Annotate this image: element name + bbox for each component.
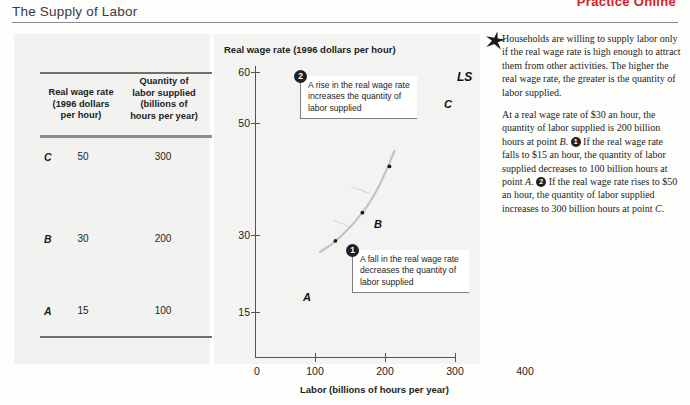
p2-period-2: . (531, 176, 534, 187)
point-label-b: B (374, 218, 382, 230)
x-tick-label-200: 200 (368, 365, 402, 377)
sidebar-paragraph-2: At a real wage rate of $30 an hour, the … (502, 108, 682, 215)
callout-badge-1: 1 (346, 244, 359, 257)
table-cell-quantity: 100 (122, 305, 204, 316)
curve-label-ls: LS (457, 70, 472, 84)
table-cell-quantity: 300 (122, 151, 204, 162)
p2-period-1: . (566, 136, 569, 147)
table-header-wage: Real wage rate (1996 dollars per hour) (44, 87, 118, 122)
chart-x-axis-title: Labor (billions of hours per year) (300, 384, 449, 395)
p2-period-3: . (662, 203, 665, 214)
table-cell-quantity: 200 (122, 233, 204, 244)
table-header-wage-line1: Real wage rate (44, 87, 118, 99)
title-divider (12, 22, 678, 23)
table-header-wage-line2: (1996 dollars (44, 99, 118, 111)
data-point-b (360, 211, 364, 215)
callout-box-1: A fall in the real wage rate decreases t… (352, 250, 469, 293)
inline-badge-1: 1 (571, 137, 581, 147)
p2-point-c: C (655, 203, 662, 214)
sidebar-text: Households are willing to supply labor o… (502, 32, 682, 224)
table-header-qty-line4: hours per year) (122, 111, 206, 123)
data-table-panel: Real wage rate (1996 dollars per hour) Q… (14, 34, 210, 364)
table-rule-middle (40, 135, 212, 138)
callout-box-2: A rise in the real wage rate increases t… (300, 76, 417, 119)
table-rule-bottom (40, 336, 212, 338)
x-tick-label-100: 100 (298, 365, 332, 377)
table-header-qty-line3: (billions of (122, 99, 206, 111)
point-label-c: C (444, 98, 452, 110)
table-rule-top (40, 72, 212, 74)
callout-2-leader (351, 186, 370, 193)
figure-title: The Supply of Labor (12, 4, 137, 19)
data-point-c (387, 164, 391, 168)
table-cell-wage: 30 (48, 233, 118, 244)
table-header-qty-line2: labor supplied (122, 88, 206, 100)
table-cell-wage: 15 (48, 305, 118, 316)
sidebar-paragraph-1: Households are willing to supply labor o… (502, 32, 682, 99)
x-tick-label-400: 400 (508, 365, 542, 377)
table-header-wage-line3: per hour) (44, 110, 118, 122)
data-point-a (334, 239, 338, 243)
x-tick-label-0: 0 (240, 365, 274, 377)
callout-1-leader (334, 220, 350, 226)
callout-badge-2: 2 (294, 70, 307, 83)
point-label-a: A (303, 291, 311, 303)
inline-badge-2: 2 (536, 177, 546, 187)
x-tick-label-300: 300 (438, 365, 472, 377)
practice-online-label: Practice Online (577, 0, 676, 9)
table-cell-wage: 50 (48, 151, 118, 162)
figure-page: The Supply of Labor Practice Online Real… (0, 0, 690, 405)
labor-supply-curve (320, 151, 394, 252)
table-header-qty-line1: Quantity of (122, 76, 206, 88)
table-header-quantity: Quantity of labor supplied (billions of … (122, 76, 206, 122)
